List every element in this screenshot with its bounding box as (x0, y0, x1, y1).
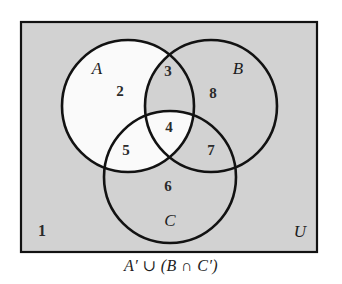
region-number-5: 5 (122, 142, 130, 158)
universe-label: U (294, 222, 308, 241)
region-number-1: 1 (38, 222, 46, 239)
region-number-3: 3 (164, 63, 172, 79)
set-label-c: C (164, 211, 176, 230)
region-number-7: 7 (207, 142, 215, 158)
set-label-a: A (91, 59, 103, 78)
region-number-6: 6 (164, 178, 172, 194)
venn-diagram-canvas: A B C 1 U 2 3 4 5 6 7 8 (0, 0, 342, 284)
figure-caption: A′ ∪ (B ∩ C′) (0, 256, 342, 275)
venn-diagram-figure: A B C 1 U 2 3 4 5 6 7 8 A′ ∪ (B ∩ C′) (0, 0, 342, 284)
set-label-b: B (233, 59, 244, 78)
region-number-8: 8 (209, 85, 217, 101)
region-number-2: 2 (116, 83, 124, 99)
region-fill-6 (0, 0, 342, 284)
region-number-4: 4 (165, 119, 173, 135)
